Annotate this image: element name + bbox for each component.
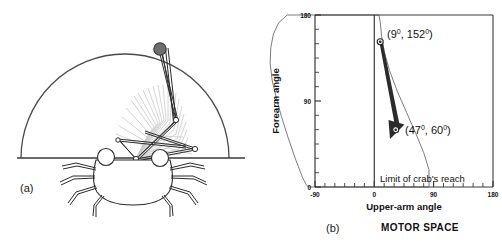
elbow-joint-left-pose [116, 138, 120, 142]
x-tick-label-max: 180 [488, 191, 499, 198]
motor-space-caption: MOTOR SPACE [381, 222, 459, 233]
y-tick-label-max: 180 [300, 12, 311, 19]
motor-space-svg: 0 90 180 -90 0 90 180 Upper-arm angle Fo… [251, 0, 502, 243]
panel-b-motor-space-plot: 0 90 180 -90 0 90 180 Upper-arm angle Fo… [251, 0, 502, 243]
data-point-end-y: 60 [431, 124, 443, 136]
data-point-start-label: (90, 1520) [387, 28, 433, 40]
reach-limit-annotation: Limit of crab's reach [380, 173, 465, 184]
panel-a-crab-diagram: (a) [0, 0, 251, 243]
panel-a-tag: (a) [20, 182, 33, 194]
x-tick-label-zero: 0 [372, 191, 376, 198]
figure-root: (a) [0, 0, 502, 243]
movement-arrow [380, 42, 405, 140]
crab-eye-right [152, 150, 169, 167]
y-tick-label-mid: 90 [304, 98, 312, 105]
y-tick-label-min: 0 [307, 184, 311, 191]
data-point-end-x: 47 [409, 124, 421, 136]
y-axis-major-ticks [315, 15, 321, 187]
crab-diagram-svg [0, 0, 251, 243]
data-point-start-y: 152 [407, 28, 425, 40]
target-point [154, 43, 166, 55]
reach-limit-curve [270, 15, 429, 187]
elbow-joint-low-pose [192, 146, 197, 151]
x-tick-label-mid: 90 [430, 191, 438, 198]
y-axis-title: Forearm angle [270, 68, 281, 133]
data-point-start-core [379, 41, 382, 44]
data-point-end-label: (470, 600) [405, 124, 451, 136]
x-axis-title: Upper-arm angle [366, 201, 442, 212]
workspace-arc [21, 54, 229, 158]
data-point-end-core [394, 128, 397, 131]
x-tick-label-min: -90 [310, 191, 320, 198]
crab-eye-left [98, 149, 115, 166]
elbow-joint [173, 117, 178, 122]
panel-b-tag: (b) [326, 222, 339, 234]
